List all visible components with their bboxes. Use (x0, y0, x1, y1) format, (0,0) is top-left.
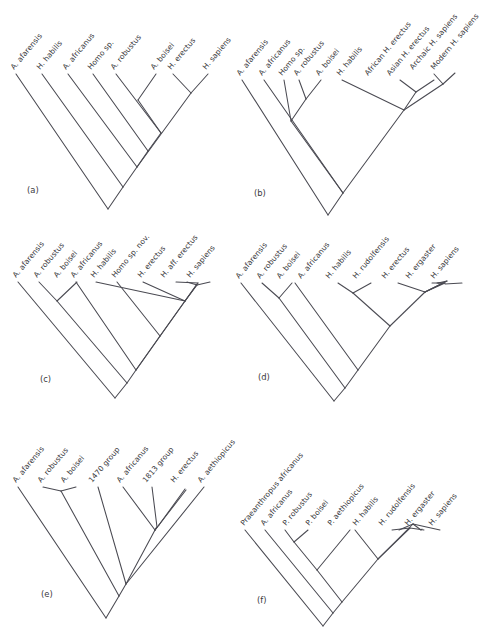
panel-a-branches (16, 74, 208, 209)
taxon-label: H. habilis (335, 45, 364, 78)
panel-b: A. afarensis A. africanus Homo sp. A. ro… (235, 12, 481, 215)
panel-a: A. afarensis H. habilis A. africanus Hom… (9, 31, 233, 209)
taxon-label: A. robustus (109, 33, 143, 72)
panel-a-taxon-labels: A. afarensis H. habilis A. africanus Hom… (9, 31, 233, 71)
panel-label-d: (d) (258, 372, 270, 382)
panel-d-inner-branches (425, 283, 462, 292)
panel-c-taxon-labels: A. afarensis A. robustus A. boisei A. af… (11, 232, 217, 279)
panel-d-taxon-labels: A. afarensis A. robustus A. boisei A. af… (234, 235, 461, 281)
panel-label-f: (f) (257, 595, 266, 605)
taxon-label: A. aethiopicus (196, 437, 237, 484)
panel-c-inner-branches (117, 282, 210, 370)
taxon-label: H. erectus (166, 36, 198, 71)
panel-e-inner-branches (126, 487, 204, 584)
taxon-label: H. habilis (35, 39, 64, 72)
panel-label-c: (c) (40, 374, 51, 384)
panel-b-branches (242, 73, 455, 215)
panel-f: Praeanthropus africanus A. africanus P. … (239, 451, 459, 626)
panel-d-branches (241, 281, 447, 401)
panel-e: A. afarensis A. robustus A. boisei 1470 … (11, 437, 237, 618)
panel-label-a: (a) (27, 185, 39, 195)
panel-e-taxon-labels: A. afarensis A. robustus A. boisei 1470 … (11, 437, 237, 484)
panel-label-e: (e) (41, 589, 53, 599)
panel-f-branches (245, 528, 424, 626)
taxon-label: H. habilis (324, 248, 353, 281)
panel-b-taxon-labels: A. afarensis A. africanus Homo sp. A. ro… (235, 12, 481, 78)
cladogram-figure: A. afarensis H. habilis A. africanus Hom… (0, 0, 484, 632)
panel-f-taxon-labels: Praeanthropus africanus A. africanus P. … (239, 451, 459, 528)
cladogram-canvas: A. afarensis H. habilis A. africanus Hom… (0, 0, 484, 632)
panel-label-b: (b) (254, 188, 266, 198)
panel-d: A. afarensis A. robustus A. boisei A. af… (234, 235, 462, 401)
panel-c: A. afarensis A. robustus A. boisei A. af… (11, 232, 217, 398)
taxon-label: H. sapiens (201, 35, 233, 71)
